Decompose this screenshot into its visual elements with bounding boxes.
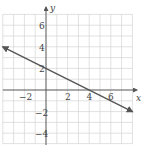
x-tick-label: 2	[65, 92, 71, 102]
y-tick-label: −2	[35, 108, 48, 118]
x-axis-label: x	[136, 93, 141, 103]
x-tick-label: −2	[19, 92, 32, 102]
y-tick-label: 2	[39, 64, 45, 74]
y-tick-label: 4	[39, 43, 45, 53]
y-tick-label: 6	[39, 21, 45, 31]
x-tick-label: 6	[108, 92, 114, 102]
x-tick-label: 4	[87, 92, 93, 102]
y-tick-label: −4	[35, 129, 49, 139]
y-axis-label: y	[49, 3, 56, 13]
coordinate-plane: x y −2 2 4 6 6 4 2 −2 −4	[0, 0, 141, 147]
